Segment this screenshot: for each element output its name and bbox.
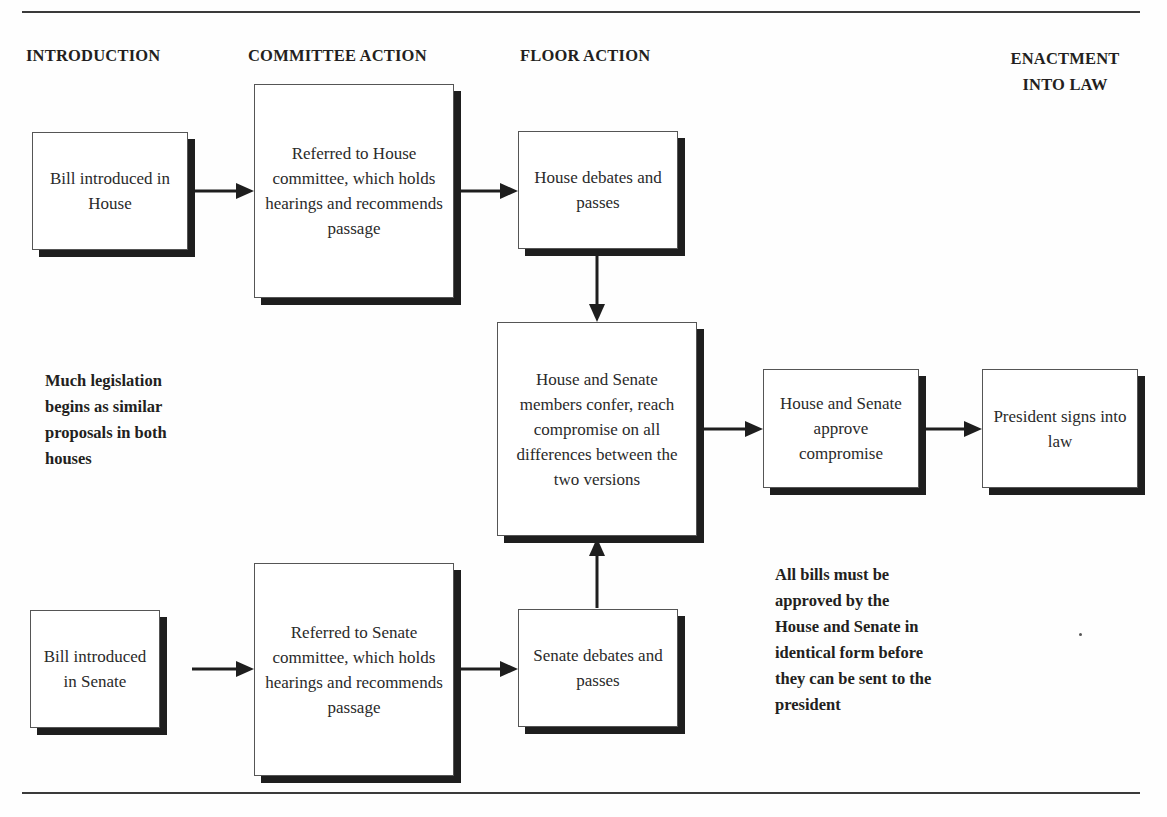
box-bill-introduced-house: Bill introduced in House [32,132,188,250]
box-senate-floor: Senate debates and passes [518,609,678,727]
box-conference: House and Senate members confer, reach c… [497,322,697,536]
note-identical-form: All bills must be approved by the House … [775,562,935,718]
box-house-committee: Referred to House committee, which holds… [254,84,454,298]
box-senate-committee: Referred to Senate committee, which hold… [254,563,454,776]
note-similar-proposals: Much legislation begins as similar propo… [45,368,210,472]
speck [1079,633,1082,636]
box-bill-introduced-senate: Bill introduced in Senate [30,610,160,728]
box-president-signs: President signs into law [982,369,1138,488]
box-house-floor: House debates and passes [518,131,678,249]
box-approve-compromise: House and Senate approve compromise [763,369,919,488]
